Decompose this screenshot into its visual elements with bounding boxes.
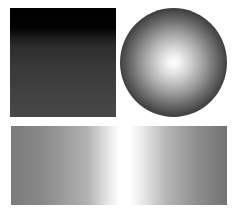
gradient-canvas [0,0,236,209]
radial-gradient-sphere [120,8,227,117]
vertical-gradient-square [10,8,116,117]
horizontal-gradient-bar [11,126,227,205]
